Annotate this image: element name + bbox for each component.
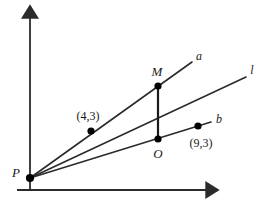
geometry-figure: P (4,3) M O (9,3) a l b <box>0 0 269 210</box>
label-point-m: M <box>152 65 163 78</box>
figure-canvas <box>0 0 269 210</box>
label-line-l: l <box>250 64 253 76</box>
point-9-3 <box>194 122 201 129</box>
point-p <box>26 174 34 182</box>
label-point-9-3: (9,3) <box>190 137 213 149</box>
ray-l <box>30 77 246 178</box>
label-point-o: O <box>153 147 162 160</box>
label-line-a: a <box>196 50 202 62</box>
label-point-p: P <box>12 166 20 179</box>
point-o <box>154 135 161 142</box>
ray-b <box>30 122 211 178</box>
label-point-4-3: (4,3) <box>77 110 100 122</box>
label-line-b: b <box>216 113 222 125</box>
point-m <box>154 82 161 89</box>
point-4-3 <box>87 127 94 134</box>
ray-a <box>30 62 192 178</box>
